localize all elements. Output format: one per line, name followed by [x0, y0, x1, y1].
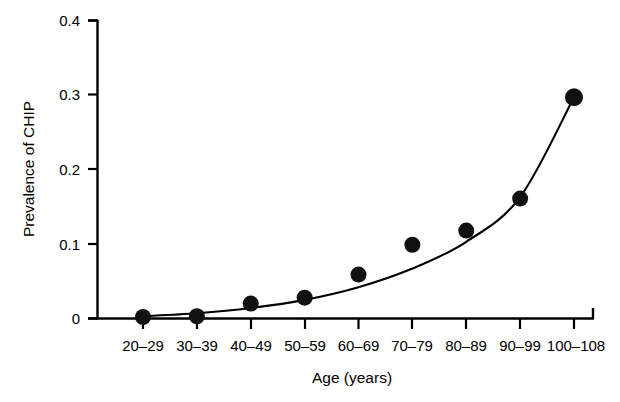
- data-point-30–39: [189, 308, 205, 324]
- y-axis-title: Prevalence of CHIP: [20, 101, 37, 237]
- y-tick-label-3: 0.3: [59, 86, 80, 103]
- data-point-40–49: [243, 296, 259, 312]
- data-point-100–108: [565, 88, 583, 106]
- data-point-50–59: [297, 290, 313, 306]
- data-point-70–79: [404, 237, 420, 253]
- fitted-trend-curve: [143, 97, 574, 316]
- y-tick-label-1: 0.1: [59, 236, 80, 253]
- data-point-90–99: [512, 191, 528, 207]
- data-points-layer: [135, 88, 583, 325]
- x-axis-ticks: [143, 319, 574, 330]
- y-tick-label-4: 0.4: [59, 12, 80, 29]
- x-tick-label-70-79: 70–79: [391, 337, 433, 354]
- x-tick-label-90-99: 90–99: [499, 337, 541, 354]
- x-axis-title: Age (years): [312, 369, 392, 386]
- x-tick-label-20-29: 20–29: [122, 337, 164, 354]
- data-point-20–29: [135, 309, 151, 325]
- data-point-80–89: [458, 223, 474, 239]
- x-tick-label-30-39: 30–39: [176, 337, 218, 354]
- data-point-60–69: [351, 267, 367, 283]
- y-tick-label-2: 0.2: [59, 161, 80, 178]
- prevalence-scatter-chart: 0 0.1 0.2 0.3 0.4 Prevalence of CHIP 20–…: [0, 0, 620, 402]
- x-tick-label-50-59: 50–59: [284, 337, 326, 354]
- chart-figure: 0 0.1 0.2 0.3 0.4 Prevalence of CHIP 20–…: [0, 0, 620, 402]
- x-tick-label-40-49: 40–49: [230, 337, 272, 354]
- y-tick-label-0: 0: [72, 310, 80, 327]
- x-tick-label-100-108: 100–108: [547, 337, 605, 354]
- x-tick-label-60-69: 60–69: [338, 337, 380, 354]
- x-tick-label-80-89: 80–89: [445, 337, 487, 354]
